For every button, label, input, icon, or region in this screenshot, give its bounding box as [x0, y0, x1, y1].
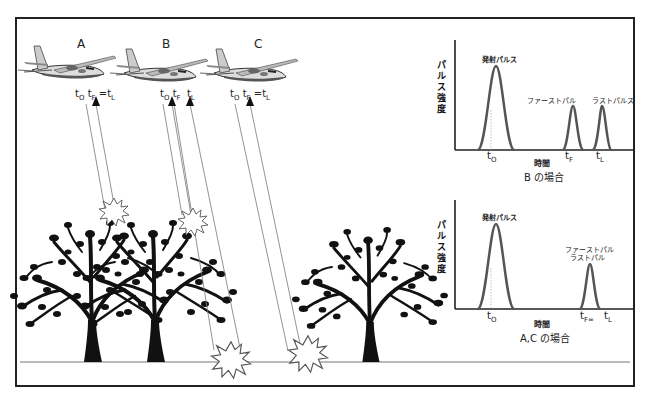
aircraft-a	[18, 46, 116, 79]
chart-b-tick-t0: tO	[487, 150, 496, 164]
chart-ac-tick-tf: tF=	[580, 310, 594, 324]
aircraft-b-label: B	[162, 37, 170, 51]
chart-b-first-label: ファーストパル	[527, 95, 576, 105]
aircraft-a-label: A	[77, 37, 85, 51]
aircraft-b	[110, 49, 208, 82]
chart-ac-caption: A,C の場合	[520, 330, 570, 345]
burst-ground-c	[289, 336, 328, 372]
tree-left	[10, 220, 174, 362]
chart-ac-tick-t0: tO	[487, 310, 496, 324]
burst-canopy-b	[178, 208, 208, 236]
chart-ac-tick-tl: tL	[604, 310, 612, 324]
aircraft-c	[200, 49, 298, 82]
burst-ground-b	[212, 342, 251, 378]
aircraft-c-times: tO tF =tL	[230, 88, 270, 102]
chart-ac-last-label: ラストパル	[570, 252, 605, 262]
chart-ac-emit-label: 発射パルス	[482, 212, 517, 222]
chart-b-emit-label: 発射パルス	[482, 54, 517, 64]
chart-ac-xlabel: 時間	[534, 318, 550, 329]
chart-ac-pulses	[478, 224, 600, 309]
chart-b-tick-tf: tF	[565, 150, 573, 164]
aircraft-c-label: C	[254, 37, 262, 51]
burst-canopy-a	[99, 198, 129, 226]
aircraft-b-times: tO tF tL	[160, 88, 195, 102]
aircraft-a-times: tO tF =tL	[75, 88, 115, 102]
chart-b-pulses	[478, 66, 611, 150]
chart-b-xlabel: 時間	[534, 157, 550, 168]
chart-b-ylabel: パルス強度	[436, 60, 446, 115]
chart-ac-ylabel: パルス強度	[436, 220, 446, 275]
chart-b-tick-tl: tL	[596, 150, 604, 164]
chart-b-caption: B の場合	[524, 169, 564, 184]
chart-b-last-label: ラストパルス	[592, 95, 634, 105]
